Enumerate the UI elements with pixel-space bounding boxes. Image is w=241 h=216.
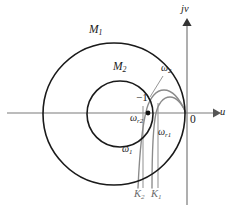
horizontal-axis-label: u [220, 107, 225, 118]
gain-line-k1-label: K1 [151, 189, 162, 200]
omega-2-label: ω2 [161, 63, 171, 73]
axes-group [7, 18, 221, 205]
omega-2-leader-line [150, 76, 163, 97]
nyquist-curves-group [138, 90, 186, 188]
omega-r2-label: ωr2 [130, 113, 143, 123]
m-circle-2-label: M2 [113, 61, 127, 73]
diagram-canvas [0, 0, 241, 216]
omega-r1-label: ωr1 [158, 127, 171, 137]
vertical-axis-label: jv [181, 4, 189, 15]
critical-point-marker [146, 111, 151, 116]
nyquist-curve-k1 [152, 97, 186, 188]
nyquist-curve-k2 [138, 90, 186, 188]
m-circle-1-label: M1 [89, 24, 103, 36]
origin-label: 0 [190, 114, 196, 126]
nyquist-m-circle-diagram: M1 M2 −1 0 u jv ω2 ωr2 ωr1 ω1 K2 K1 [0, 0, 241, 216]
vertical-axis-arrow [182, 18, 191, 26]
omega-1-label: ω1 [122, 144, 132, 154]
gain-line-k2-label: K2 [134, 189, 145, 200]
critical-point-label: −1 [136, 92, 148, 103]
